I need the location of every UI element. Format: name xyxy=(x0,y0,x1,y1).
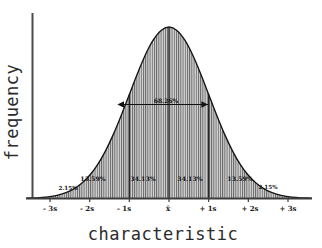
band-label-mean-to-plus1: 34.13% xyxy=(177,175,202,182)
x-tick-label-minus-1s: - 1s xyxy=(117,204,131,213)
x-tick-label-plus-3s: + 3s xyxy=(279,204,296,213)
x-tick-label-plus-2s: + 2s xyxy=(241,204,258,213)
x-tick-label-plus-1s: + 1s xyxy=(199,204,216,213)
x-tick-label-minus-3s: - 3s xyxy=(43,204,57,213)
band-label-plus1-to-plus2: 13.59% xyxy=(227,175,252,182)
x-axis-title: characteristic xyxy=(88,224,238,244)
normal-distribution-chart: - 3s - 2s - 1s x̄ + 1s + 2s + 3s 2.15% 1… xyxy=(0,0,322,248)
one-sigma-span-label: 68.26% xyxy=(154,97,179,104)
band-label-minus3-to-minus2: 2.15% xyxy=(59,185,79,191)
band-label-minus2-to-minus1: 13.59% xyxy=(80,175,105,182)
x-tick-label-minus-2s: - 2s xyxy=(80,204,94,213)
band-label-minus1-to-mean: 34.13% xyxy=(130,175,155,182)
band-label-plus2-to-plus3: 2.15% xyxy=(259,184,279,190)
y-axis-title: frequency xyxy=(2,64,22,161)
